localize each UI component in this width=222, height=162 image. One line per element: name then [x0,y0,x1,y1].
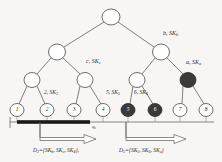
arrow-d2 [40,122,96,144]
annotation-q-sub: s [95,126,96,130]
annotation-node-a: a, SKa [186,59,201,66]
edge-L1b-L2c [142,58,155,74]
edge-L2c-leaf5 [130,86,133,104]
node-L1a[interactable] [49,44,66,60]
annotation-leaf-6-sub: 6 [146,91,148,96]
edge-L2b-leaf4 [90,86,101,104]
annotation-leaf-6: 6, SK6 [134,90,148,96]
arrow-d5-outline [126,122,186,144]
edge-L1a-L2a [37,58,51,74]
thick-coverage-bar [17,120,90,124]
annotation-node-c: c, SKc [86,58,101,65]
figure-canvas: 1 2 3 4 5 6 7 8 b, SKb a, SKa c, SKc 2, … [0,0,222,162]
leaf-label-2: 2 [42,107,52,113]
annotation-leaf-5-sub: 5 [118,91,120,96]
annotation-leaf-2: 2, SK2 [44,90,58,96]
leaf-label-7: 7 [175,107,185,113]
d5-close: } [162,147,164,153]
node-L2a[interactable] [24,73,40,88]
leaf-label-5: 5 [123,107,133,113]
annotation-node-b-text: b, SK [163,30,176,36]
edge-L2d-leaf8 [193,86,204,104]
leaf-label-8: 8 [201,107,211,113]
edge-L1b-L2d [167,58,183,74]
annotation-node-c-sub: c [99,60,101,65]
annotation-node-a-text: a, SK [186,59,199,65]
leaf-label-1: 1 [12,107,22,113]
node-L2c[interactable] [129,73,145,88]
node-a-revoked[interactable] [180,73,196,88]
annotation-leaf-5: 5, SK5 [106,90,120,96]
annotation-leaf-2-sub: 2 [56,91,58,96]
set-label-d5: D5={SK5, SK6, SKa} [119,148,164,154]
arrow-d2-outline [40,122,96,144]
d2-item-0-sub: b [51,149,53,154]
edge-L2a-leaf1 [19,86,27,104]
key-tree-svg [0,0,222,162]
d2-item-1-sub: c [62,149,64,154]
edge-root-L1b [118,22,154,47]
leaf-label-6: 6 [150,107,160,113]
annotation-node-b: b, SKb [163,30,178,37]
annotation-leaf-6-text: 6, SK [134,89,146,95]
axis-group [10,117,214,128]
leaf-label-3: 3 [69,107,79,113]
d2-close: }, [75,147,79,153]
annotation-node-b-sub: b [176,32,178,37]
node-c[interactable] [77,73,93,88]
edge-root-L1a [64,22,104,47]
node-b[interactable] [153,44,170,60]
edge-L2d-leaf7 [182,86,183,104]
annotation-node-c-text: c, SK [86,58,99,64]
edge-L1a-L2b [63,58,80,74]
annotation-leaf-2-text: 2, SK [44,89,56,95]
annotation-leaf-5-text: 5, SK [106,89,118,95]
d5-item-0-sub: 5 [137,149,139,154]
annotation-node-a-sub: a [199,61,201,66]
leaf-label-4: 4 [98,107,108,113]
arrow-d5 [126,122,186,144]
node-root[interactable] [102,9,120,25]
annotation-q-marker: qs [92,124,96,130]
edge-L2b-leaf3 [76,86,80,104]
d5-item-1-sub: 6 [148,149,150,154]
set-label-d2: D2={SKb, SKc, SK4}, [33,148,79,154]
